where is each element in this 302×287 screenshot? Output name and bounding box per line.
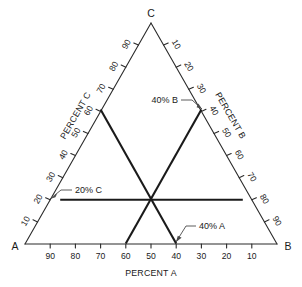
tick-labels-axis-a: 90 80 70 60 50 40 30 20 10: [45, 251, 256, 261]
tick-label-c-1: 20: [31, 192, 45, 205]
tick-b-30: [189, 87, 194, 89]
tick-marks-axis-c: [33, 43, 138, 222]
tick-b-60: [227, 154, 232, 156]
tick-marks-axis-b: [164, 43, 269, 222]
tick-label-a-2: 70: [96, 251, 106, 261]
line-40-percent-b: [101, 109, 177, 243]
tick-label-b-8: 90: [270, 214, 284, 227]
annotation-40-percent-b: 40% B: [151, 95, 202, 109]
tick-label-a-1: 80: [71, 251, 81, 261]
tick-label-a-7: 20: [222, 251, 232, 261]
axis-title-a: PERCENT A: [125, 268, 177, 278]
annotation-label-20-c: 20% C: [75, 185, 103, 195]
ternary-diagram-svg: C A B 90 80 70 60 50 40 30 20 10 10 20 3…: [0, 0, 302, 287]
tick-c-40: [71, 154, 76, 156]
tick-b-70: [239, 176, 244, 178]
tick-b-80: [252, 198, 257, 200]
annotation-label-40-b: 40% B: [151, 95, 178, 105]
tick-label-b-0: 10: [170, 38, 184, 51]
tick-label-a-6: 30: [197, 251, 207, 261]
tick-label-b-4: 50: [220, 126, 234, 139]
tick-label-a-4: 50: [146, 251, 156, 261]
tick-marks-axis-a: [50, 244, 252, 248]
tick-label-c-2: 30: [44, 170, 58, 183]
tick-c-20: [46, 198, 51, 200]
tick-c-90: [134, 43, 139, 45]
tick-label-c-7: 80: [107, 59, 121, 72]
tick-label-c-6: 70: [94, 82, 108, 95]
tick-b-90: [264, 220, 269, 222]
tick-label-a-3: 60: [121, 251, 131, 261]
tick-b-10: [164, 43, 169, 45]
tick-label-b-7: 80: [258, 192, 272, 205]
tick-c-60: [96, 109, 101, 111]
vertex-label-b: B: [284, 240, 291, 252]
tick-label-b-5: 60: [233, 148, 247, 161]
tick-b-40: [201, 109, 206, 111]
tick-c-70: [109, 87, 114, 89]
tick-label-c-0: 10: [19, 214, 33, 227]
arrowhead-40-a: [176, 236, 182, 242]
tick-label-b-6: 70: [245, 170, 259, 183]
tick-b-20: [176, 65, 181, 67]
vertex-label-a: A: [11, 240, 18, 252]
tick-label-b-2: 30: [195, 82, 209, 95]
vertex-label-c: C: [147, 7, 155, 19]
tick-c-80: [121, 65, 126, 67]
tick-label-a-0: 90: [45, 251, 55, 261]
tick-b-50: [214, 131, 219, 133]
tick-label-c-3: 40: [56, 148, 70, 161]
tick-c-30: [58, 176, 63, 178]
annotation-40-percent-a: 40% A: [176, 221, 225, 242]
tick-label-b-1: 20: [182, 60, 196, 73]
line-40-percent-a: [126, 109, 202, 243]
tick-label-a-8: 10: [247, 251, 257, 261]
tick-label-b-3: 40: [207, 104, 221, 117]
tick-label-c-8: 90: [119, 37, 133, 50]
tick-c-10: [33, 220, 38, 222]
ternary-diagram-figure: C A B 90 80 70 60 50 40 30 20 10 10 20 3…: [0, 0, 302, 287]
tick-c-50: [83, 131, 88, 133]
annotation-label-40-a: 40% A: [199, 221, 225, 231]
tick-label-a-5: 40: [171, 251, 181, 261]
